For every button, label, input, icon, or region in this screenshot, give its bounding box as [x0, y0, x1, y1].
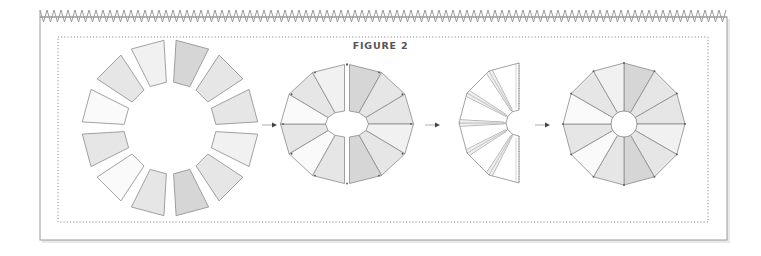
- center-hole: [611, 111, 637, 137]
- figure-canvas: FIGURE 2: [0, 0, 761, 256]
- figure-title: FIGURE 2: [0, 40, 761, 51]
- figure-illustration: [0, 0, 761, 256]
